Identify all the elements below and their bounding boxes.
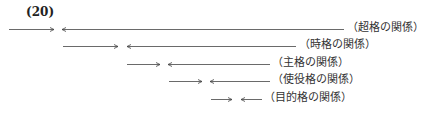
label-subject-case: （主格の関係）	[272, 57, 349, 69]
label-super-case: （超格の関係）	[347, 22, 424, 34]
label-causative-case: （使役格の関係）	[272, 74, 360, 86]
label-time-case: （時格の関係）	[299, 39, 376, 51]
arrow-diagram	[0, 0, 424, 113]
label-object-case: （目的格の関係）	[264, 92, 352, 104]
